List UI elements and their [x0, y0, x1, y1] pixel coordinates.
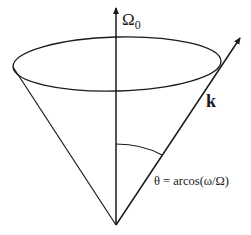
theta-formula-label: θ = arcos(ω/Ω)	[154, 174, 229, 188]
theta-angle-arc	[116, 144, 162, 155]
cone-rim-ellipse	[12, 34, 221, 93]
cone-diagram: Ω0 k θ = arcos(ω/Ω)	[0, 0, 251, 235]
omega-axis-label: Ω0	[122, 10, 141, 32]
k-vector-label: k	[206, 91, 216, 111]
k-vector-arrow	[116, 38, 240, 225]
